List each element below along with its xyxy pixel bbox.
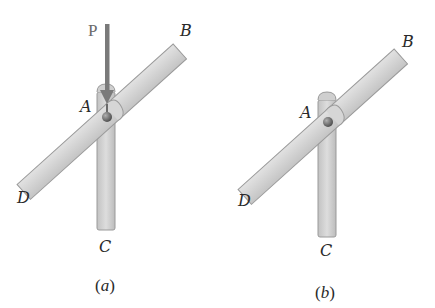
label-a-a: A [78, 97, 92, 116]
label-a-b: A [298, 103, 312, 122]
pin-a-icon [102, 112, 112, 122]
label-d-a: D [16, 188, 30, 207]
pin-a-icon [323, 117, 333, 127]
caption-a-letter: a [101, 276, 110, 295]
caption-a: (a) [95, 276, 115, 295]
panel-b: B A D C (b) [237, 32, 414, 302]
label-b-b: B [401, 32, 414, 51]
label-b-a: B [179, 21, 192, 40]
caption-b-letter: b [321, 283, 330, 302]
figure-canvas: P B A D C (a) B A D C (b) [0, 0, 435, 308]
label-force-p: P [88, 21, 97, 40]
panel-a: P B A D C (a) [16, 21, 192, 295]
label-d-b: D [237, 191, 251, 210]
label-c-b: C [320, 241, 332, 260]
caption-b: (b) [315, 283, 335, 302]
label-c-a: C [99, 237, 111, 256]
